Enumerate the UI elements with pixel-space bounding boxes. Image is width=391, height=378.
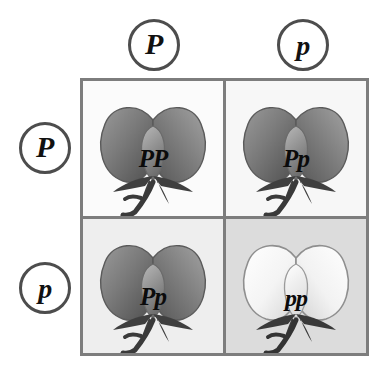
column-allele-label-0: P [145,29,163,59]
pea-flower-icon: Pp [234,86,358,215]
row-allele-label-1: p [38,275,52,303]
column-allele-circle-1: p [277,19,329,71]
column-allele-label-1: p [296,32,310,60]
pea-flower-icon: Pp [91,224,215,353]
row-allele-circle-0: P [19,122,71,174]
punnett-cell-1-1: pp [226,219,366,354]
pea-flower-icon: PP [91,86,215,215]
column-allele-circle-0: P [128,19,180,71]
punnett-square-diagram: P p P p [0,0,391,378]
row-allele-label-0: P [36,132,54,162]
pea-flower-icon: pp [234,224,358,353]
row-allele-circle-1: p [19,262,71,314]
punnett-cell-0-1: Pp [226,81,366,216]
punnett-grid: PP [80,78,369,356]
punnett-cell-0-0: PP [83,81,223,216]
punnett-cell-1-0: Pp [83,219,223,354]
